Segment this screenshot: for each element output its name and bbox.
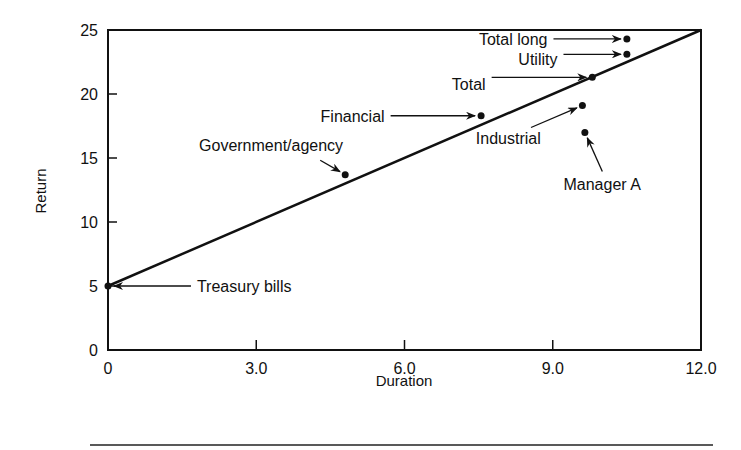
- point-label: Utility: [518, 51, 557, 68]
- data-point: [589, 74, 596, 81]
- y-tick-label: 0: [89, 342, 98, 359]
- y-tick-label: 10: [80, 214, 98, 231]
- y-tick-label: 25: [80, 22, 98, 39]
- point-label: Industrial: [476, 130, 541, 147]
- x-tick-label: 0: [104, 360, 113, 377]
- market-line: [108, 30, 701, 286]
- point-label: Financial: [321, 108, 385, 125]
- annotation-arrow: [531, 108, 577, 128]
- data-point: [342, 171, 349, 178]
- data-point: [581, 129, 588, 136]
- y-tick-label: 15: [80, 150, 98, 167]
- chart: 03.06.09.012.0 0510152025 Treasury bills…: [0, 0, 741, 450]
- x-tick-label: 12.0: [685, 360, 716, 377]
- y-axis: 0510152025: [80, 22, 117, 359]
- x-tick-label: 3.0: [245, 360, 267, 377]
- data-point: [478, 112, 485, 119]
- x-tick-label: 9.0: [542, 360, 564, 377]
- data-point: [623, 51, 630, 58]
- point-label: Manager A: [563, 176, 641, 193]
- point-label: Total long: [479, 31, 548, 48]
- data-point: [579, 102, 586, 109]
- data-point: [105, 283, 112, 290]
- data-points: [105, 35, 631, 289]
- y-tick-label: 5: [89, 278, 98, 295]
- y-axis-title: Return: [32, 168, 49, 213]
- y-tick-label: 20: [80, 86, 98, 103]
- annotations: Treasury billsGovernment/agencyFinancial…: [114, 31, 641, 295]
- point-label: Total: [452, 76, 486, 93]
- annotation-arrow: [320, 160, 340, 171]
- market-line-group: [108, 30, 701, 286]
- data-point: [623, 35, 630, 42]
- x-axis-title: Duration: [376, 372, 433, 389]
- point-label: Government/agency: [199, 137, 343, 154]
- point-label: Treasury bills: [197, 278, 292, 295]
- annotation-arrow: [587, 138, 602, 172]
